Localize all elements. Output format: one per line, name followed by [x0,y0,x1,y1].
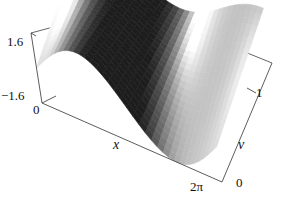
z-axis-max-tick: 1.6 [7,35,23,48]
x-axis-label: x [113,138,119,152]
plot-canvas [0,0,282,204]
z-axis-min-tick: −1.6 [1,89,25,102]
x-axis-min-tick: 0 [33,103,40,116]
v-axis-max-tick: 1 [256,86,263,99]
v-axis-min-tick: 0 [236,176,243,189]
surface-mesh [37,0,264,164]
surface-plot-figure: 1.6 −1.6 0 2π 0 1 x v [0,0,282,204]
v-axis-label: v [238,138,244,152]
x-axis-max-tick: 2π [190,180,203,193]
